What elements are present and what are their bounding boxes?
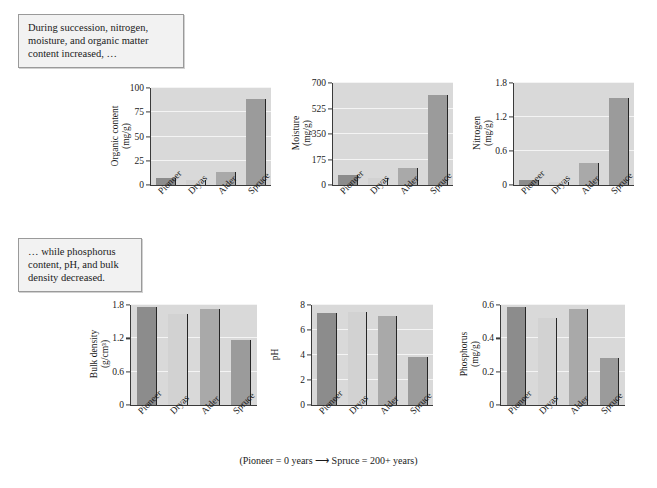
- bar-slot-dryas: [532, 305, 563, 405]
- gridline: [151, 87, 271, 88]
- bar-phosphorus-spruce: [600, 358, 620, 406]
- x-tick-label-alder: Alder: [568, 394, 590, 416]
- bar-slot-spruce: [604, 83, 634, 185]
- bar-slot-spruce: [241, 88, 271, 185]
- bar-slot-alder: [574, 83, 604, 185]
- bar-slot-spruce: [226, 305, 258, 405]
- y-tick-label: 0: [120, 180, 144, 190]
- bar-moisture-dryas: [368, 178, 387, 185]
- bar-nitrogen-dryas: [549, 182, 568, 185]
- bar-group-organic-content: [151, 88, 271, 185]
- gridline: [312, 304, 433, 305]
- gridline: [131, 337, 257, 338]
- bar-bulk-density-dryas: [168, 314, 188, 405]
- x-tick-label-pioneer: Pioneer: [317, 388, 345, 416]
- y-tick-label: 1.2: [483, 112, 507, 122]
- y-tick-label: 2: [281, 375, 305, 385]
- y-tick-label: 8: [281, 300, 305, 310]
- bar-slot-spruce: [594, 305, 625, 405]
- y-tick-label: 4: [281, 350, 305, 360]
- y-tick-mark: [146, 112, 150, 113]
- gridline: [514, 116, 634, 117]
- y-tick-label: 0: [281, 400, 305, 410]
- y-tick-label: 1.2: [100, 333, 124, 343]
- callout-bottom-text: … while phosphorus content, pH, and bulk…: [28, 246, 119, 283]
- y-tick-label: 6: [281, 325, 305, 335]
- y-tick-label: 525: [302, 104, 326, 114]
- plot-area-ph: [311, 305, 433, 406]
- y-tick-label: 0.6: [470, 300, 494, 310]
- y-axis-title-phosphorus: Phosphorus(mg/g): [459, 284, 481, 424]
- bar-phosphorus-dryas: [538, 318, 558, 405]
- gridline: [312, 329, 433, 330]
- bar-slot-pioneer: [514, 83, 544, 185]
- y-tick-mark: [307, 304, 311, 305]
- x-tick-label-alder: Alder: [216, 174, 238, 196]
- y-tick-mark: [328, 133, 332, 134]
- y-tick-mark: [307, 404, 311, 405]
- bar-organic-content-pioneer: [156, 178, 175, 185]
- bar-ph-pioneer: [317, 313, 336, 406]
- y-tick-label: 0: [100, 400, 124, 410]
- bar-ph-dryas: [348, 312, 367, 405]
- y-tick-label: 100: [120, 83, 144, 93]
- bar-phosphorus-pioneer: [507, 307, 527, 405]
- bar-nitrogen-spruce: [609, 98, 628, 185]
- bar-slot-dryas: [342, 305, 372, 405]
- figure-caption: (Pioneer = 0 years ⟶ Spruce = 200+ years…: [0, 455, 657, 466]
- y-tick-label: 0.4: [470, 333, 494, 343]
- x-tick-label-spruce: Spruce: [609, 170, 635, 196]
- plot-area-phosphorus: [500, 305, 625, 406]
- y-tick-mark: [146, 136, 150, 137]
- y-tick-label: 0: [483, 180, 507, 190]
- y-axis-title-moisture: Moisture(mg/g): [291, 62, 313, 204]
- bar-bulk-density-spruce: [231, 340, 251, 405]
- y-tick-mark: [126, 304, 130, 305]
- callout-top-text: During succession, nitrogen, moisture, a…: [28, 22, 149, 59]
- x-tick-label-pioneer: Pioneer: [338, 168, 366, 196]
- plot-area-nitrogen: [513, 83, 634, 186]
- y-tick-mark: [307, 354, 311, 355]
- y-tick-label: 0.6: [100, 367, 124, 377]
- plot-area-moisture: [332, 83, 453, 186]
- bar-slot-pioneer: [333, 83, 363, 185]
- x-tick-label-dryas: Dryas: [186, 173, 209, 196]
- gridline: [501, 304, 625, 305]
- y-tick-mark: [496, 404, 500, 405]
- y-tick-mark: [496, 304, 500, 305]
- bar-slot-alder: [563, 305, 594, 405]
- y-tick-mark: [509, 82, 513, 83]
- bar-bulk-density-pioneer: [137, 307, 157, 405]
- plot-area-bulk-density: [130, 305, 257, 406]
- y-tick-mark: [509, 116, 513, 117]
- bar-slot-alder: [194, 305, 226, 405]
- bar-slot-dryas: [544, 83, 574, 185]
- y-tick-mark: [307, 329, 311, 330]
- x-tick-label-pioneer: Pioneer: [519, 168, 547, 196]
- y-tick-mark: [126, 338, 130, 339]
- bar-slot-dryas: [163, 305, 195, 405]
- x-tick-label-spruce: Spruce: [599, 390, 625, 416]
- x-tick-label-pioneer: Pioneer: [136, 388, 164, 416]
- bar-group-phosphorus: [501, 305, 625, 405]
- bar-bulk-density-alder: [200, 309, 220, 405]
- bar-slot-pioneer: [501, 305, 532, 405]
- bar-slot-pioneer: [151, 88, 181, 185]
- y-tick-label: 50: [120, 132, 144, 142]
- bar-slot-spruce: [423, 83, 453, 185]
- x-tick-label-dryas: Dryas: [537, 393, 560, 416]
- y-tick-mark: [328, 108, 332, 109]
- x-tick-label-pioneer: Pioneer: [506, 388, 534, 416]
- gridline: [333, 159, 453, 160]
- bar-group-ph: [312, 305, 433, 405]
- y-axis-title-ph: pH: [270, 285, 281, 425]
- y-tick-mark: [146, 160, 150, 161]
- x-tick-label-dryas: Dryas: [347, 393, 370, 416]
- x-tick-label-spruce: Spruce: [231, 390, 257, 416]
- bar-moisture-alder: [398, 168, 417, 185]
- x-tick-label-dryas: Dryas: [549, 173, 572, 196]
- x-tick-label-alder: Alder: [398, 174, 420, 196]
- y-axis-title-nitrogen: Nitrogen(mg/g): [472, 62, 494, 204]
- y-tick-label: 0.6: [483, 146, 507, 156]
- y-tick-label: 0: [302, 180, 326, 190]
